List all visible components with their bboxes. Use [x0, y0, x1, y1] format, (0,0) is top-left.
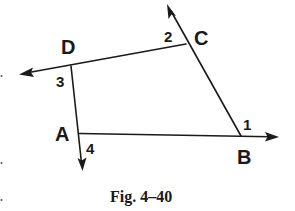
vertex-label-c: C	[194, 27, 208, 49]
figure-caption: Fig. 4–40	[110, 188, 172, 206]
segment-dc-ray-left	[26, 44, 186, 73]
angle-label-4: 4	[86, 140, 95, 157]
print-speck	[1, 75, 3, 77]
vertex-label-b: B	[237, 146, 251, 168]
print-speck	[1, 199, 3, 201]
vertex-label-d: D	[61, 36, 75, 58]
angle-label-1: 1	[243, 116, 251, 133]
angle-label-2: 2	[164, 28, 172, 45]
quadrilateral-exterior-angles-figure: D C A B 1 2 3 4 Fig. 4–40	[0, 0, 295, 211]
print-speck	[1, 162, 3, 164]
arrowhead-down-icon	[78, 158, 87, 172]
segment-da-ray-down	[71, 66, 82, 163]
vertex-label-a: A	[55, 123, 69, 145]
angle-label-3: 3	[56, 73, 64, 90]
